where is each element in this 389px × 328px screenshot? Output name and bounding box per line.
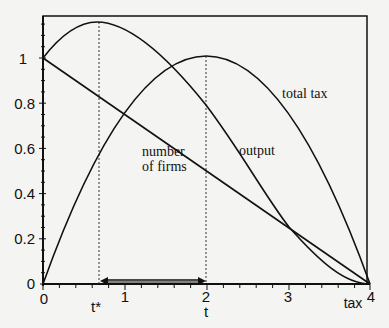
t-label: t [204,303,209,320]
number-of-firms-label-line1: number [142,144,185,159]
x-axis-label: tax [344,295,363,311]
chart: 1 0.8 0.6 0.4 0.2 0 0 1 2 3 4 tax t* t n… [0,0,389,328]
output-label: output [239,143,275,158]
x-tick-label-1: 1 [121,288,129,305]
y-tick-label-0.8: 0.8 [14,95,35,112]
y-tick-label-1: 1 [19,50,27,67]
x-tick-label-4: 4 [367,288,375,305]
t-star-label: t* [91,298,101,315]
y-tick-label-0.4: 0.4 [14,185,35,202]
x-tick-label-0: 0 [40,290,48,307]
x-tick-label-3: 3 [284,288,292,305]
y-tick-label-0.6: 0.6 [14,140,35,157]
number-of-firms-label-line2: of firms [142,159,187,174]
total-tax-label: total tax [282,86,328,101]
y-tick-label-0: 0 [27,275,35,292]
y-tick-label-0.2: 0.2 [14,230,35,247]
